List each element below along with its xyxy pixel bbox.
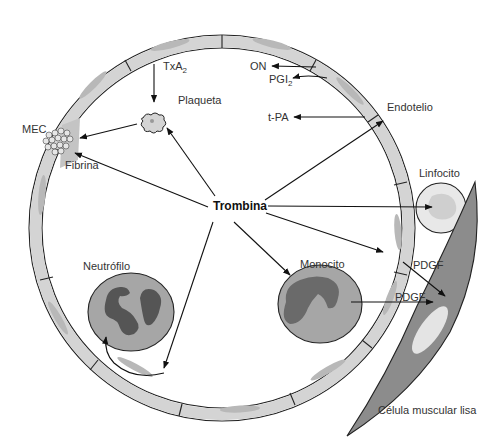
thrombin-label: Trombina bbox=[213, 199, 267, 213]
pdgf-label-2: PDGF bbox=[395, 291, 426, 303]
monocyte-label: Monocito bbox=[300, 258, 345, 270]
neutrophil-label: Neutrófilo bbox=[83, 260, 130, 272]
pgi2-label: PGI2 bbox=[269, 73, 293, 88]
monocyte bbox=[278, 265, 362, 343]
fibrin-label: Fibrina bbox=[65, 159, 100, 171]
smooth-muscle-label: Célula muscular lisa bbox=[378, 404, 477, 416]
txa2-label: TxA2 bbox=[163, 60, 188, 75]
platelet-label: Plaqueta bbox=[178, 94, 222, 106]
endothelium-label: Endotelio bbox=[387, 101, 433, 113]
endothelial-vessel-ring bbox=[29, 35, 415, 421]
mec-label: MEC bbox=[22, 123, 47, 135]
tpa-label: t-PA bbox=[268, 111, 289, 123]
on-label: ON bbox=[250, 60, 267, 72]
lymphocyte-label: Linfocito bbox=[419, 167, 460, 179]
neutrophil bbox=[88, 273, 174, 351]
thrombin-diagram: Trombina TxA2 Plaqueta MEC Fibrina ON PG… bbox=[0, 0, 495, 445]
platelet bbox=[141, 113, 166, 133]
pdgf-label-1: PDGF bbox=[413, 259, 444, 271]
